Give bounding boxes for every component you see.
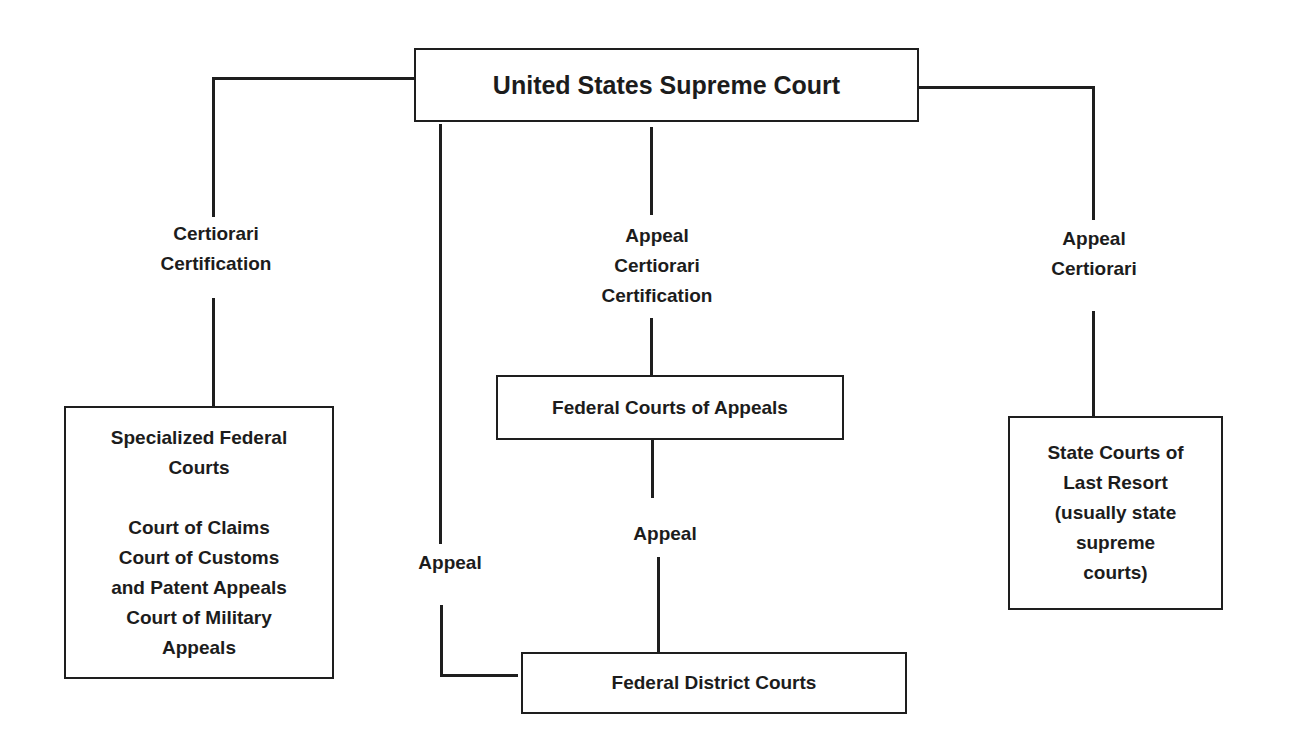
node-state-courts-line: (usually state: [1055, 498, 1176, 528]
edge-label-line: Certification: [602, 281, 713, 311]
node-specialized-member-line: Court of Military: [126, 603, 272, 633]
node-specialized-federal-courts: Specialized Federal Courts Court of Clai…: [64, 406, 334, 679]
edge-label-line: Appeal: [418, 548, 481, 578]
connector-supreme-right-horizontal: [919, 86, 1095, 89]
node-state-courts-line: Last Resort: [1063, 468, 1168, 498]
node-federal-district-courts: Federal District Courts: [521, 652, 907, 714]
node-supreme-court: United States Supreme Court: [414, 48, 919, 122]
node-specialized-member-line: Court of Customs: [119, 543, 279, 573]
connector-district-supreme-horizontal: [440, 674, 518, 677]
node-state-courts-line: courts): [1083, 558, 1147, 588]
node-specialized-member-line: Court of Claims: [128, 513, 269, 543]
edge-label-line: Certification: [161, 249, 272, 279]
edge-label-line: Appeal: [633, 519, 696, 549]
node-courts-of-appeals-label: Federal Courts of Appeals: [552, 397, 788, 419]
connector-state-lower: [1092, 311, 1095, 417]
node-specialized-heading-line: Specialized Federal: [111, 423, 287, 453]
node-state-courts-of-last-resort: State Courts of Last Resort (usually sta…: [1008, 416, 1223, 610]
edge-label-line: Certiorari: [602, 251, 713, 281]
edge-label-district-to-appeals-appeal: Appeal: [633, 519, 696, 549]
connector-district-supreme-upper: [439, 124, 442, 544]
edge-label-appeal-certiorari-certification: Appeal Certiorari Certification: [602, 221, 713, 311]
node-supreme-court-label: United States Supreme Court: [493, 71, 840, 100]
connector-district-appeals-upper: [651, 440, 654, 498]
node-state-courts-line: supreme: [1076, 528, 1155, 558]
node-specialized-heading-line: Courts: [168, 453, 229, 483]
connector-supreme-left-horizontal: [212, 77, 414, 80]
connector-district-appeals-lower: [657, 557, 660, 652]
edge-label-appeal-certiorari: Appeal Certiorari: [1051, 224, 1137, 284]
edge-label-line: Appeal: [602, 221, 713, 251]
connector-district-supreme-lower: [440, 605, 443, 677]
node-specialized-member-line: and Patent Appeals: [111, 573, 287, 603]
node-state-courts-line: State Courts of: [1047, 438, 1183, 468]
edge-label-line: Certiorari: [1051, 254, 1137, 284]
connector-appeals-lower: [650, 318, 653, 376]
edge-label-line: Appeal: [1051, 224, 1137, 254]
connector-appeals-upper: [650, 127, 653, 215]
edge-label-certiorari-certification: Certiorari Certification: [161, 219, 272, 279]
node-federal-courts-of-appeals: Federal Courts of Appeals: [496, 375, 844, 440]
node-district-courts-label: Federal District Courts: [612, 672, 817, 694]
connector-specialized-upper: [212, 77, 215, 217]
edge-label-district-to-supreme-appeal: Appeal: [418, 548, 481, 578]
connector-specialized-lower: [212, 298, 215, 408]
connector-state-upper: [1092, 86, 1095, 220]
edge-label-line: Certiorari: [161, 219, 272, 249]
node-specialized-member-line: Appeals: [162, 633, 236, 663]
